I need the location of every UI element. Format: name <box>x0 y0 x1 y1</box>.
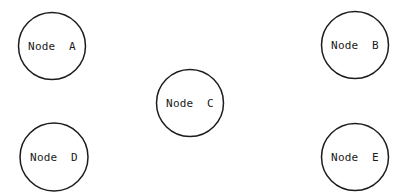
node-group-d[interactable]: Node D <box>20 123 88 191</box>
node-graph: Node A Node B Node C Node D Node E <box>0 0 403 195</box>
node-group-b[interactable]: Node B <box>322 12 389 79</box>
node-group-c[interactable]: Node C <box>157 70 224 137</box>
node-label-a: Node A <box>28 40 76 53</box>
diagram-canvas: Node A Node B Node C Node D Node E <box>0 0 403 195</box>
node-group-a[interactable]: Node A <box>19 13 86 80</box>
node-label-b: Node B <box>331 39 379 52</box>
node-label-d: Node D <box>30 151 78 164</box>
node-label-c: Node C <box>166 97 214 110</box>
node-label-e: Node E <box>331 151 379 164</box>
node-group-e[interactable]: Node E <box>322 124 389 191</box>
